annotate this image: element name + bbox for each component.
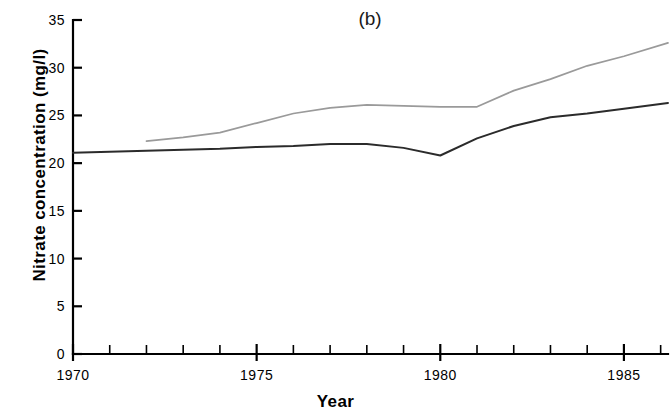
- chart-series: [73, 43, 668, 156]
- y-tick-label-35: 35: [48, 12, 65, 28]
- x-axis-title: Year: [0, 392, 671, 412]
- y-tick-label-10: 10: [48, 251, 65, 267]
- y-tick-label-15: 15: [48, 203, 65, 219]
- chart-axes: [73, 20, 668, 354]
- series-upper-series: [146, 43, 668, 141]
- x-tick-label-1975: 1975: [240, 367, 273, 383]
- line-chart-plot: 051015202530351970197519801985: [0, 0, 671, 418]
- chart-figure: Nitrate concentration (mg/l) (b) 0510152…: [0, 0, 671, 418]
- chart-tick-labels: 051015202530351970197519801985: [48, 12, 640, 383]
- x-tick-label-1985: 1985: [607, 367, 640, 383]
- y-tick-label-20: 20: [48, 155, 65, 171]
- y-tick-label-5: 5: [57, 298, 65, 314]
- y-tick-label-25: 25: [48, 107, 65, 123]
- y-tick-label-0: 0: [57, 346, 65, 362]
- x-tick-label-1970: 1970: [56, 367, 89, 383]
- y-tick-label-30: 30: [48, 60, 65, 76]
- series-lower-series: [73, 103, 668, 155]
- x-tick-label-1980: 1980: [424, 367, 457, 383]
